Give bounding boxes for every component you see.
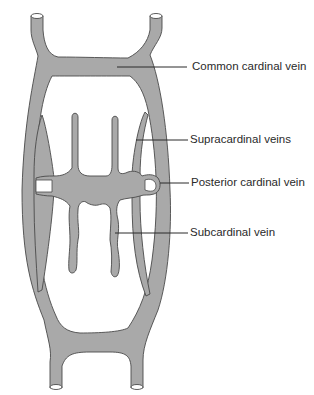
label-common-cardinal-vein: Common cardinal vein: [192, 61, 306, 73]
tube-opening-top-right: [150, 14, 162, 19]
tube-opening-bottom-left: [50, 385, 62, 390]
label-posterior-cardinal-vein: Posterior cardinal vein: [191, 177, 305, 189]
tube-opening-bottom-right: [131, 385, 143, 390]
left-supracardinal-vein: [34, 115, 66, 292]
tube-opening-top-left: [31, 14, 43, 19]
label-subcardinal-vein: Subcardinal vein: [190, 227, 275, 239]
right-window: [145, 179, 156, 191]
label-supracardinal-veins: Supracardinal veins: [190, 134, 291, 146]
left-window: [36, 180, 52, 192]
